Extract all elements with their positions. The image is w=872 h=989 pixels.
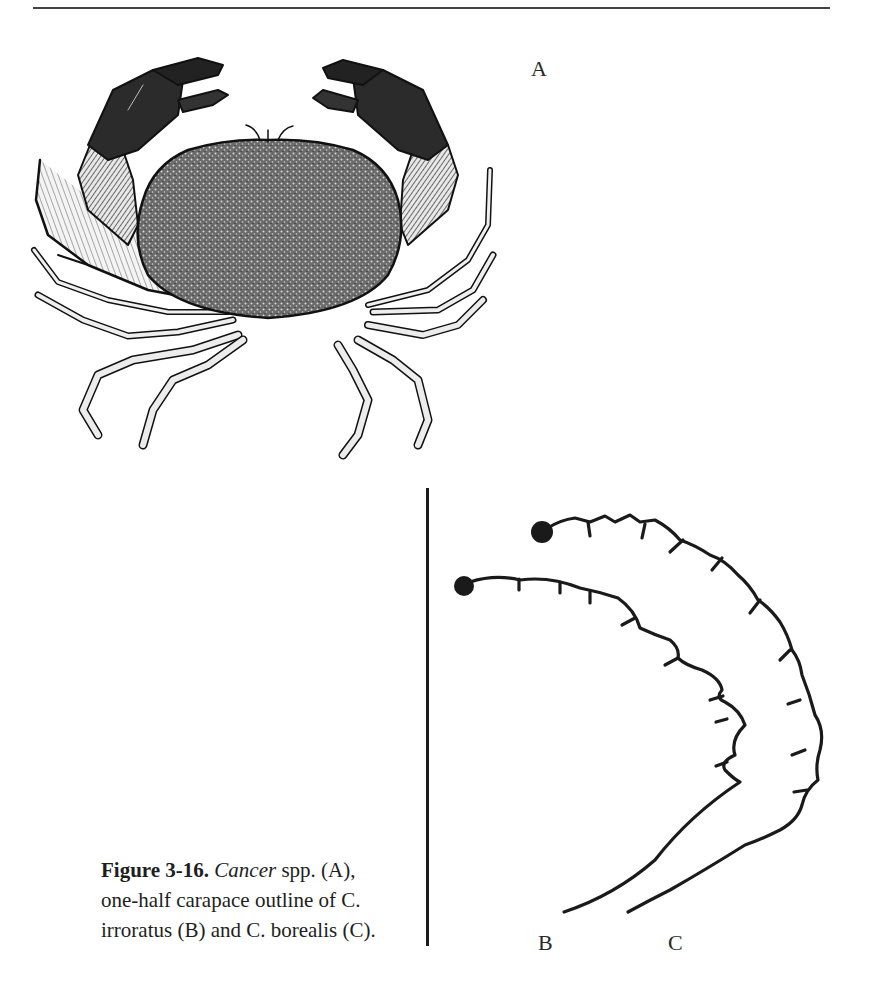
crab-illustration [28,50,508,460]
caption-line-2: one-half carapace outline of C. [101,885,431,915]
caption-line-1: Figure 3-16. Cancer spp. (A), [101,855,431,885]
page-header-rule [33,7,830,9]
caption-line-1-rest: spp. (A), [276,858,355,882]
genus-name: Cancer [214,858,276,882]
caption-line-3: irroratus (B) and C. borealis (C). [101,915,431,945]
carapace-outlines [440,500,860,960]
panel-label-a: A [531,56,547,82]
figure-number: Figure 3-16. [101,858,209,882]
figure-caption: Figure 3-16. Cancer spp. (A), one-half c… [101,855,431,945]
panel-label-c: C [668,930,683,956]
panel-label-b: B [538,930,553,956]
outline-c-borealis [531,515,822,912]
outline-b-irroratus [454,576,745,912]
